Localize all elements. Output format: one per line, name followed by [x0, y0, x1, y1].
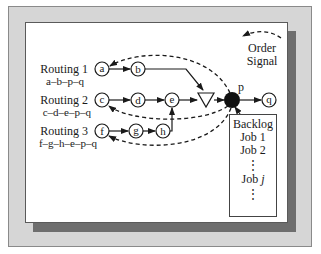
node-c-label: c [100, 93, 105, 105]
feedback-arc-routing-2 [109, 106, 228, 119]
routing-2-label: Routing 2 [40, 93, 88, 107]
node-h-label: h [160, 125, 166, 137]
buffer-triangle-icon [198, 93, 214, 107]
node-g-label: g [133, 124, 139, 136]
node-p-label: p [238, 80, 244, 94]
feedback-arc-routing-1 [110, 55, 230, 93]
order-signal-line1: Order [248, 41, 276, 55]
arrow-backlog-p [235, 107, 240, 114]
node-f-label: f [100, 125, 104, 137]
node-e-label: e [170, 93, 175, 105]
backlog-box: Backlog Job 1 Job 2 ⋮ Job j ⋮ [229, 114, 277, 217]
routing-1-sequence: a–b–p–q [46, 75, 84, 87]
backlog-item: Job 2 [230, 144, 276, 157]
routing-3-label: Routing 3 [40, 124, 88, 138]
backlog-ellipsis: ⋮ [230, 186, 276, 202]
order-signal-arrow [243, 32, 281, 38]
backlog-ellipsis: ⋮ [230, 157, 276, 173]
routing-2-sequence: c–d–e–p–q [43, 106, 92, 118]
node-q-label: q [266, 93, 272, 105]
node-b-label: b [135, 63, 141, 75]
arrow-b-buffer [145, 69, 203, 90]
node-d-label: d [135, 94, 141, 106]
routing-1-label: Routing 1 [40, 62, 88, 76]
routing-3-sequence: f–g–h–e–p–q [39, 137, 98, 149]
backlog-item-j: Job j [230, 173, 276, 186]
node-a-label: a [100, 62, 105, 74]
node-p [224, 92, 240, 108]
order-signal-line2: Signal [247, 54, 278, 68]
